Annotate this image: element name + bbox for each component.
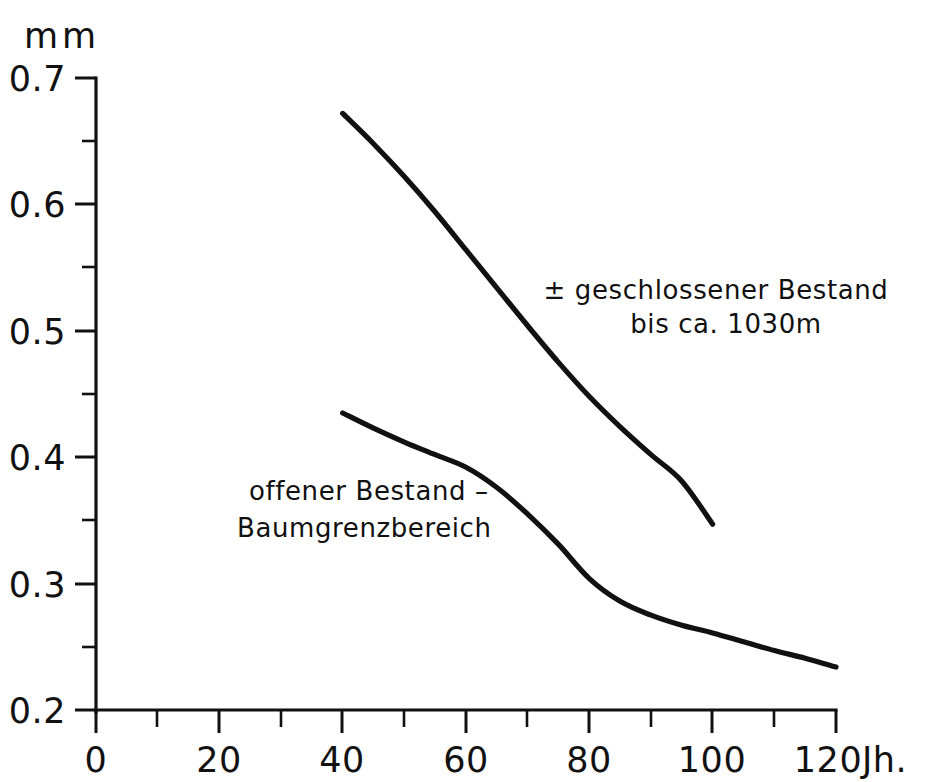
chart-svg: mm 0.7 0.6 0.5 0.4 0.3 0.2 — [0, 0, 940, 782]
x-tick-label-0: 0 — [85, 740, 108, 780]
y-axis-unit-label: mm — [24, 16, 100, 56]
annotation-upper-line-2: bis ca. 1030m — [630, 309, 822, 339]
x-tick-label-80: 80 — [566, 740, 612, 780]
annotation-upper-line-1: ± geschlossener Bestand — [544, 275, 889, 305]
y-tick-label-0-7: 0.7 — [9, 59, 66, 99]
x-tick-label-120: 120 — [794, 740, 862, 780]
y-tick-label-0-6: 0.6 — [9, 185, 66, 225]
x-tick-label-40: 40 — [319, 740, 365, 780]
annotation-upper-curve: ± geschlossener Bestand bis ca. 1030m — [544, 275, 889, 339]
x-tick-label-60: 60 — [443, 740, 489, 780]
x-tick-label-100: 100 — [678, 740, 746, 780]
chart-figure: mm 0.7 0.6 0.5 0.4 0.3 0.2 — [0, 0, 940, 782]
y-tick-label-0-5: 0.5 — [9, 312, 66, 352]
y-tick-label-0-3: 0.3 — [9, 565, 66, 605]
annotation-lower-curve: offener Bestand – Baumgrenzbereich — [237, 476, 492, 543]
y-tick-label-0-4: 0.4 — [9, 438, 66, 478]
x-tick-label-20: 20 — [196, 740, 242, 780]
y-axis-minor-ticks — [82, 141, 96, 647]
x-axis-unit-label: Jh. — [860, 740, 907, 780]
x-axis-major-ticks — [96, 710, 836, 733]
annotation-lower-line-2: Baumgrenzbereich — [237, 513, 492, 543]
annotation-lower-line-1: offener Bestand – — [249, 476, 489, 506]
y-tick-label-0-2: 0.2 — [9, 691, 66, 731]
